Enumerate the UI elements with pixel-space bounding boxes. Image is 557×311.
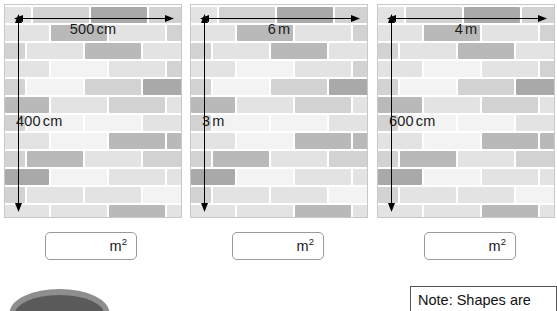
brick <box>424 61 480 77</box>
panel-3-top-dimension-label: 4m <box>455 21 478 37</box>
panel-1-top-dimension-label: 500cm <box>70 21 117 37</box>
brick <box>191 7 217 23</box>
brick <box>27 43 83 59</box>
brick <box>516 43 555 59</box>
brick <box>295 133 351 149</box>
brick <box>424 205 480 218</box>
brick <box>295 61 351 77</box>
brick <box>424 97 480 113</box>
brick <box>167 61 182 77</box>
brick <box>378 25 422 41</box>
brick <box>27 187 83 203</box>
brick <box>237 133 293 149</box>
brick <box>400 79 456 95</box>
worksheet-page: 500cm 400cm 6m 3m <box>0 0 557 311</box>
brick-wall-panel-3: 4m 600cm <box>377 4 555 218</box>
answer-unit-1-exponent: 2 <box>122 236 127 247</box>
panel-3-top-dimension-value: 4 <box>455 21 463 37</box>
brick <box>5 187 25 203</box>
brick <box>143 79 182 95</box>
brick <box>295 25 351 41</box>
brick <box>51 61 107 77</box>
brick <box>109 25 165 41</box>
brick <box>213 151 269 167</box>
brick <box>5 25 49 41</box>
brick <box>378 79 398 95</box>
answer-unit-3-exponent: 2 <box>501 236 506 247</box>
ellipse-shape-graphic <box>9 286 110 311</box>
brick <box>85 43 141 59</box>
answer-input-3[interactable]: m2 <box>424 232 516 260</box>
brick <box>400 187 456 203</box>
brick <box>5 169 49 185</box>
brick <box>213 43 269 59</box>
brick <box>378 7 404 23</box>
brick <box>143 43 182 59</box>
brick <box>219 7 275 23</box>
brick <box>522 7 555 23</box>
panel-3-side-dimension-unit: cm <box>416 113 436 129</box>
brick <box>406 7 462 23</box>
brick <box>109 97 165 113</box>
brick-row <box>5 203 181 218</box>
brick <box>378 133 422 149</box>
brick <box>237 205 293 218</box>
brick <box>51 97 107 113</box>
brick <box>378 151 398 167</box>
brick <box>458 187 514 203</box>
brick <box>424 169 480 185</box>
answer-input-2[interactable]: m2 <box>232 232 324 260</box>
brick <box>329 187 368 203</box>
brick <box>329 115 368 131</box>
answer-unit-2-base: m <box>297 238 309 254</box>
brick <box>167 97 182 113</box>
brick <box>191 43 211 59</box>
answer-unit-2: m2 <box>297 238 314 254</box>
brick <box>191 187 211 203</box>
brick <box>424 133 480 149</box>
panel-1-side-dimension-unit: cm <box>43 113 63 129</box>
brick <box>540 61 555 77</box>
brick <box>458 151 514 167</box>
brick <box>143 187 182 203</box>
brick <box>271 115 327 131</box>
brick-row <box>378 203 554 218</box>
brick <box>378 187 398 203</box>
answer-input-1[interactable]: m2 <box>45 232 137 260</box>
brick <box>329 43 368 59</box>
brick <box>458 79 514 95</box>
brick <box>540 169 555 185</box>
brick <box>191 151 211 167</box>
brick <box>237 61 293 77</box>
brick <box>329 79 368 95</box>
brick <box>482 133 538 149</box>
brick <box>335 7 368 23</box>
brick <box>143 115 182 131</box>
brick <box>378 97 422 113</box>
brick <box>191 79 211 95</box>
brick <box>271 151 327 167</box>
brick <box>237 97 293 113</box>
brick <box>378 205 422 218</box>
brick <box>516 151 555 167</box>
brick <box>167 205 182 218</box>
brick <box>482 61 538 77</box>
brick <box>271 187 327 203</box>
brick <box>271 79 327 95</box>
answer-unit-3: m2 <box>489 238 506 254</box>
brick <box>482 169 538 185</box>
brick <box>143 151 182 167</box>
brick <box>213 187 269 203</box>
brick <box>85 79 141 95</box>
panel-3-side-dimension-label: 600cm <box>389 113 436 129</box>
brick <box>540 97 555 113</box>
brick <box>167 25 182 41</box>
brick <box>27 151 83 167</box>
panel-1-side-dimension-label: 400cm <box>16 113 63 129</box>
brick <box>482 97 538 113</box>
panel-2-top-dimension-label: 6m <box>268 21 291 37</box>
answer-unit-2-exponent: 2 <box>309 236 314 247</box>
brick <box>378 169 422 185</box>
answer-unit-1-base: m <box>110 238 122 254</box>
brick-wall-panel-2: 6m 3m <box>190 4 368 218</box>
